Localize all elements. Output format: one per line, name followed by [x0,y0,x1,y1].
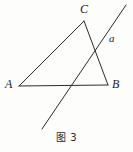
geometry-canvas [0,0,133,152]
segment-ab [19,85,108,86]
geometry-figure: A B C a 图 3 [0,0,133,152]
vertex-label-a: A [5,78,12,90]
triangle-abc [19,21,108,86]
segment-cb [84,21,108,85]
vertex-label-b: B [112,78,119,90]
segment-ac [19,21,84,86]
vertex-label-c: C [80,3,88,15]
line-label-a: a [109,33,115,44]
line-a [42,5,126,129]
figure-caption: 图 3 [0,133,133,143]
